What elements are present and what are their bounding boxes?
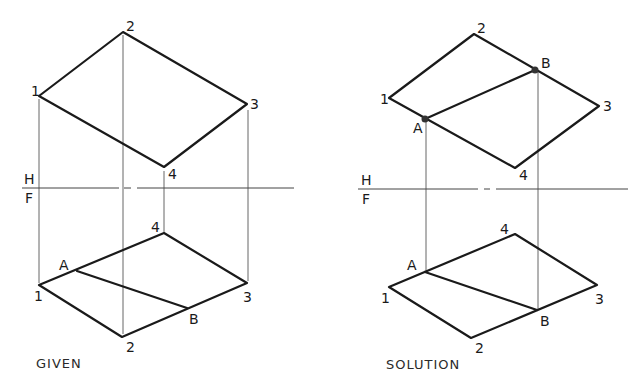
vertex-label: 2 bbox=[475, 340, 484, 356]
line-ab-top bbox=[425, 70, 535, 119]
vertex-label: 1 bbox=[34, 288, 43, 304]
point-label-a: A bbox=[407, 257, 417, 273]
vertex-label: 2 bbox=[126, 339, 135, 355]
caption-solution: SOLUTION bbox=[386, 357, 460, 372]
vertex-label: 4 bbox=[151, 219, 160, 235]
vertex-label: 4 bbox=[519, 167, 528, 183]
solution-panel: H F 1 2 3 4 A B 1 4 3 2 A B SOLUTION bbox=[358, 20, 628, 372]
fold-label-f: F bbox=[25, 190, 33, 206]
plane-front-view bbox=[389, 234, 597, 338]
vertex-label: 3 bbox=[603, 98, 612, 114]
caption-given: GIVEN bbox=[36, 356, 82, 371]
point-label-b: B bbox=[189, 311, 199, 327]
fold-label-h: H bbox=[361, 172, 372, 188]
vertex-label: 3 bbox=[250, 96, 259, 112]
plane-front-view bbox=[39, 233, 247, 337]
line-ab-front bbox=[425, 272, 537, 310]
point-label-b: B bbox=[540, 313, 550, 329]
vertex-label: 1 bbox=[31, 83, 40, 99]
point-b-marker bbox=[532, 67, 539, 74]
plane-top-view bbox=[39, 32, 247, 167]
vertex-label: 1 bbox=[380, 91, 389, 107]
vertex-label: 3 bbox=[243, 289, 252, 305]
vertex-label: 3 bbox=[595, 291, 604, 307]
point-label-a: A bbox=[59, 257, 69, 273]
point-label-a: A bbox=[413, 120, 423, 136]
orthographic-drawing: H F 1 2 3 4 1 4 3 2 A B GIVEN H F 1 bbox=[0, 0, 644, 386]
fold-label-h: H bbox=[24, 171, 35, 187]
plane-top-view bbox=[389, 34, 599, 168]
vertex-label: 1 bbox=[381, 290, 390, 306]
vertex-label: 2 bbox=[126, 18, 135, 34]
line-ab-front bbox=[77, 271, 187, 308]
vertex-label: 4 bbox=[168, 166, 177, 182]
given-panel: H F 1 2 3 4 1 4 3 2 A B GIVEN bbox=[22, 18, 294, 371]
fold-label-f: F bbox=[362, 191, 370, 207]
point-label-b: B bbox=[541, 55, 551, 71]
vertex-label: 2 bbox=[477, 20, 486, 36]
vertex-label: 4 bbox=[500, 221, 509, 237]
